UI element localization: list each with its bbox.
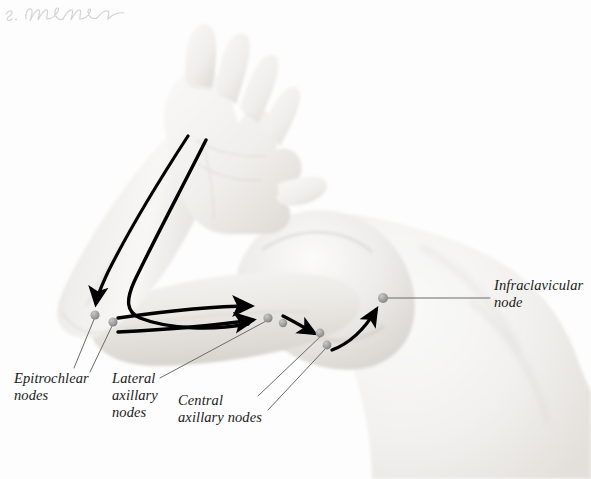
artist-signature xyxy=(6,8,124,21)
label-lateral-axillary-nodes: Lateral axillary nodes xyxy=(112,370,158,421)
label-epitrochlear-nodes: Epitrochlear nodes xyxy=(14,370,89,404)
hand xyxy=(164,24,327,234)
lymphatic-drainage-illustration: Epitrochlear nodes Lateral axillary node… xyxy=(0,0,591,479)
lateral-axillary-node-upper xyxy=(263,313,272,322)
infraclavicular-node xyxy=(378,293,388,303)
epitrochlear-node-upper xyxy=(90,310,99,319)
anatomy-artwork xyxy=(0,0,591,479)
central-axillary-node-upper xyxy=(316,329,325,338)
lateral-axillary-node-lower xyxy=(279,319,287,327)
label-infraclavicular-node: Infraclavicular node xyxy=(494,277,583,311)
epitrochlear-node-lower xyxy=(108,317,117,326)
label-central-axillary-nodes: Central axillary nodes xyxy=(178,392,262,426)
central-axillary-node-lower xyxy=(323,341,332,350)
